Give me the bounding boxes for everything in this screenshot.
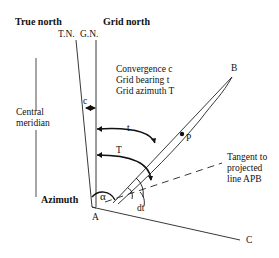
point-b-label: B (231, 63, 237, 74)
point-c-label: C (246, 235, 252, 246)
tangent-label-3: line APB (227, 174, 262, 185)
tangent-label-1: Tangent to (227, 152, 267, 163)
angle-t-label: t (127, 123, 130, 134)
central-meridian-label-1: Central (16, 107, 44, 118)
grid-azimuth-arc (97, 155, 151, 180)
true-north-line (76, 40, 92, 207)
legend-grid-bearing: Grid bearing t (116, 75, 169, 86)
legend-convergence: Convergence c (116, 64, 173, 75)
azimuth-label: Azimuth (41, 194, 78, 205)
line-ac (96, 208, 240, 240)
tangent-line (105, 163, 222, 202)
point-p-dot (180, 132, 184, 136)
true-north-header: True north (15, 16, 62, 27)
grid-bearing-arc (97, 129, 155, 143)
angle-dt-label: dt (137, 203, 144, 214)
central-meridian-label-2: meridian (16, 118, 50, 129)
tn-label: T.N. (58, 29, 75, 40)
diagram-canvas (0, 0, 279, 258)
angle-alpha-label: α (100, 191, 106, 202)
legend-grid-azimuth: Grid azimuth T (116, 86, 174, 97)
angle-T-label: T (116, 145, 122, 156)
angle-c-label: c (83, 96, 87, 107)
gn-label: G.N. (80, 29, 98, 40)
point-p-label: P (186, 133, 191, 144)
grid-north-header: Grid north (103, 16, 150, 27)
tangent-label-2: projected (227, 163, 262, 174)
point-a-label: A (92, 212, 99, 223)
